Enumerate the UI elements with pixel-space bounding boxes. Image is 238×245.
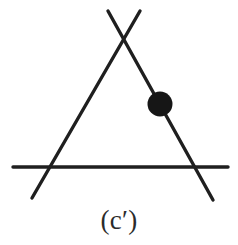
figure-container: (c′) xyxy=(0,0,238,245)
vertex-node-icon xyxy=(148,92,173,117)
figure-caption: (c′) xyxy=(0,203,238,237)
